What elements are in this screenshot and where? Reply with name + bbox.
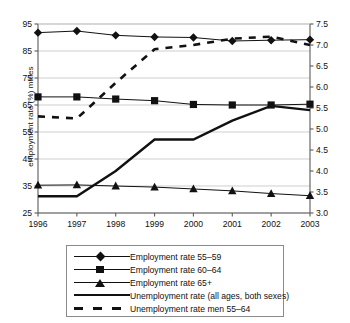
diamond-line-key — [74, 251, 130, 263]
legend-item-label: Employment rate 55–59 — [130, 251, 221, 263]
y-axis-left-tick: 45 — [4, 154, 32, 164]
y-axis-left-tick: 35 — [4, 181, 32, 191]
x-axis-tick: 2001 — [215, 219, 249, 229]
x-axis-tick: 1998 — [99, 219, 133, 229]
legend-item-label: Unemployment rate men 55–64 — [130, 303, 250, 315]
y-axis-right-tick: 4.5 — [316, 145, 344, 155]
x-axis-tick: 1999 — [138, 219, 172, 229]
y-axis-right-tick: 5.5 — [316, 103, 344, 113]
y-axis-right-tick: 6.5 — [316, 61, 344, 71]
legend-item-label: Employment rate 60–64 — [130, 264, 221, 276]
plot-area — [0, 0, 350, 245]
triangle-line-key — [74, 277, 130, 289]
legend-item: Employment rate 55–59 — [67, 250, 283, 263]
chart-legend: Employment rate 55–59 Employment rate 60… — [66, 245, 284, 317]
y-axis-right-tick: 4.0 — [316, 166, 344, 176]
square-line-key — [74, 264, 130, 276]
legend-item: Employment rate 60–64 — [67, 263, 283, 276]
y-axis-right-tick: 6.0 — [316, 82, 344, 92]
y-axis-left-tick: 75 — [4, 73, 32, 83]
y-axis-right-tick: 3.0 — [316, 208, 344, 218]
dashed-line-key — [74, 303, 130, 315]
x-axis-tick: 2003 — [293, 219, 327, 229]
legend-item-label: Employment rate 65+ — [130, 277, 212, 289]
legend-item: Unemployment rate men 55–64 — [67, 302, 283, 315]
x-axis-tick: 2002 — [254, 219, 288, 229]
y-axis-left-tick: 95 — [4, 19, 32, 29]
y-axis-right-tick: 7.5 — [316, 19, 344, 29]
legend-item: Employment rate 65+ — [67, 276, 283, 289]
x-axis-tick: 1997 — [60, 219, 94, 229]
thick-line-key — [74, 290, 130, 302]
y-axis-right-tick: 3.5 — [316, 187, 344, 197]
chart-container: employment rate (%) males unemployment r… — [0, 0, 350, 323]
y-axis-left-tick: 25 — [4, 208, 32, 218]
legend-item-label: Unemployment rate (all ages, both sexes) — [130, 290, 289, 302]
x-axis-tick: 2000 — [176, 219, 210, 229]
y-axis-left-tick: 65 — [4, 100, 32, 110]
x-axis-tick: 1996 — [21, 219, 55, 229]
y-axis-left-tick: 85 — [4, 46, 32, 56]
legend-item: Unemployment rate (all ages, both sexes) — [67, 289, 283, 302]
y-axis-left-tick: 55 — [4, 127, 32, 137]
y-axis-right-tick: 7.0 — [316, 40, 344, 50]
y-axis-right-tick: 5.0 — [316, 124, 344, 134]
